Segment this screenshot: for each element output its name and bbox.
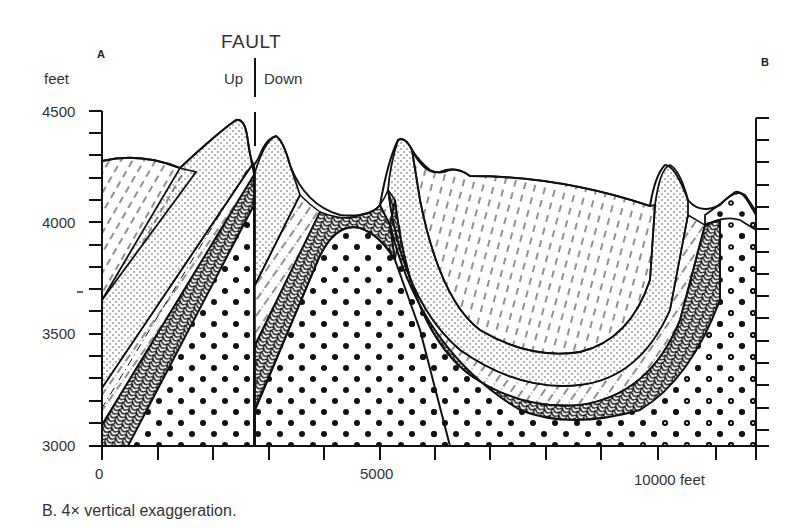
cross-section-drawing <box>0 0 808 528</box>
y-axis-left <box>89 111 102 446</box>
y-axis-right <box>756 118 769 452</box>
x-axis <box>89 446 769 460</box>
strata-group <box>102 120 790 446</box>
